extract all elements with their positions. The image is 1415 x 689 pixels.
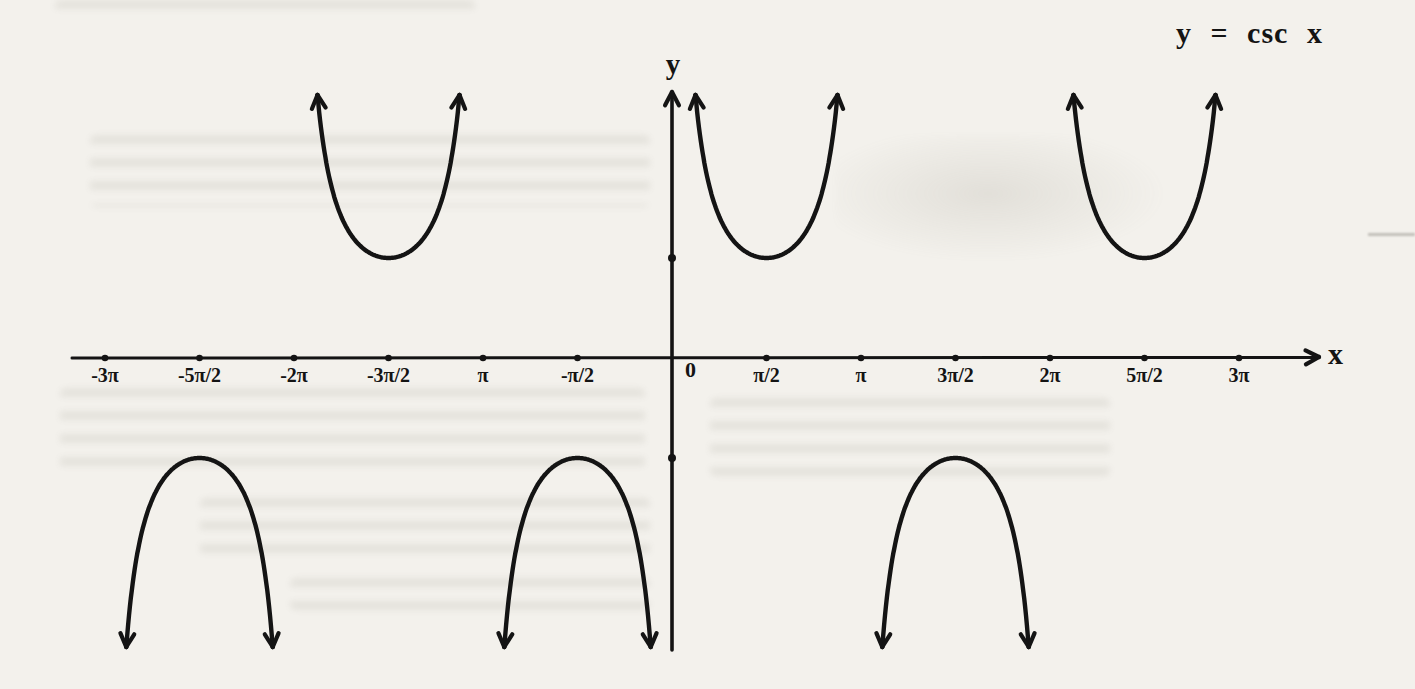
tick-label: -3π/2	[367, 364, 410, 386]
x-axis-label: x	[1328, 337, 1343, 370]
tick-label: 5π/2	[1126, 364, 1163, 386]
tick-label: -5π/2	[178, 364, 221, 386]
tick-dot	[102, 355, 109, 362]
tick-dot	[196, 355, 203, 362]
tick-label: π/2	[753, 364, 780, 386]
tick-label: 3π/2	[937, 364, 974, 386]
tick-dot	[291, 355, 298, 362]
tick-dot	[858, 355, 865, 362]
csc-branch-down	[126, 458, 272, 647]
y-axis-dot	[668, 254, 676, 262]
tick-label: -3π	[91, 364, 119, 386]
tick-dot	[480, 355, 487, 362]
tick-label: π	[856, 364, 867, 386]
csc-branch-up	[696, 95, 838, 258]
tick-label: π	[478, 364, 489, 386]
tick-label: 3π	[1229, 364, 1250, 386]
csc-branch-up	[1074, 95, 1216, 258]
tick-dot	[763, 355, 770, 362]
tick-dot	[1141, 355, 1148, 362]
tick-label: 2π	[1040, 364, 1061, 386]
origin-label: 0	[685, 358, 696, 382]
csc-branch-down	[882, 458, 1028, 647]
y-axis-dot	[668, 454, 676, 462]
tick-dot	[1236, 355, 1243, 362]
csc-plot-svg: -3π-5π/2-2π-3π/2π-π/2π/2π3π/22π5π/23π	[0, 0, 1415, 689]
y-axis-label: y	[666, 49, 681, 81]
tick-dot	[385, 355, 392, 362]
tick-dot	[574, 355, 581, 362]
csc-branch-up	[318, 95, 460, 258]
tick-dot	[952, 355, 959, 362]
tick-dot	[1047, 355, 1054, 362]
tick-label: -2π	[280, 364, 308, 386]
figure-title: y = csc x	[1176, 16, 1323, 49]
csc-graph-figure: -3π-5π/2-2π-3π/2π-π/2π/2π3π/22π5π/23π y …	[0, 0, 1415, 689]
csc-branch-down	[504, 458, 650, 647]
tick-label: -π/2	[561, 364, 594, 386]
